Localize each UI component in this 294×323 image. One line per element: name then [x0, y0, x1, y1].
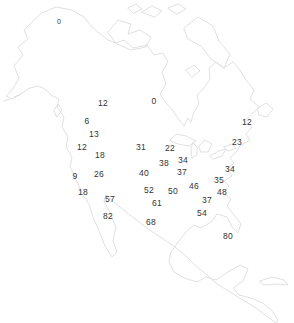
value-label: 18 — [78, 187, 88, 197]
value-label: 12 — [77, 142, 87, 152]
value-label: 34 — [178, 155, 188, 165]
value-label: 40 — [139, 168, 149, 178]
value-label: 54 — [197, 208, 207, 218]
value-label: 26 — [94, 169, 104, 179]
value-label: 48 — [217, 187, 227, 197]
value-label: 52 — [144, 185, 154, 195]
value-label: 37 — [202, 195, 212, 205]
value-label: 57 — [105, 194, 115, 204]
value-label: 9 — [73, 171, 78, 181]
value-label: 0 — [57, 18, 61, 25]
value-label: 35 — [214, 175, 224, 185]
value-label: 50 — [168, 186, 178, 196]
value-label: 37 — [177, 167, 187, 177]
value-label: 12 — [242, 117, 252, 127]
value-label: 23 — [232, 137, 242, 147]
value-label: 6 — [85, 116, 90, 126]
value-label: 46 — [189, 181, 199, 191]
value-label: 18 — [95, 150, 105, 160]
value-label: 34 — [225, 164, 235, 174]
value-label: 0 — [152, 96, 157, 106]
value-label: 80 — [223, 231, 233, 241]
value-label: 13 — [89, 129, 99, 139]
north-america-map: 0120612132312312218343834374026935465250… — [0, 0, 294, 323]
value-label: 22 — [165, 143, 175, 153]
value-label: 31 — [136, 142, 146, 152]
map-labels: 0120612132312312218343834374026935465250… — [0, 0, 294, 323]
value-label: 12 — [98, 98, 108, 108]
value-label: 82 — [103, 211, 113, 221]
value-label: 38 — [159, 158, 169, 168]
value-label: 61 — [152, 198, 162, 208]
value-label: 68 — [146, 217, 156, 227]
